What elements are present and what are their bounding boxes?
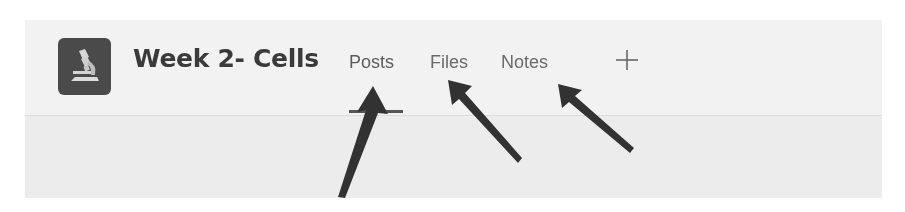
- active-tab-indicator: [349, 110, 403, 113]
- microscope-icon: [58, 38, 111, 95]
- tab-notes[interactable]: Notes: [501, 52, 548, 73]
- plus-icon: [615, 48, 639, 72]
- tab-files[interactable]: Files: [430, 52, 468, 73]
- channel-title: Week 2- Cells: [133, 44, 319, 73]
- microscope-glyph: [67, 47, 103, 87]
- header-divider: [25, 115, 882, 116]
- channel-content-area: [25, 116, 882, 198]
- screenshot-stage: Week 2- Cells Posts Files Notes: [0, 0, 905, 212]
- add-tab-button[interactable]: [615, 48, 639, 72]
- tab-posts[interactable]: Posts: [349, 52, 394, 73]
- channel-header-panel: Week 2- Cells Posts Files Notes: [25, 20, 882, 198]
